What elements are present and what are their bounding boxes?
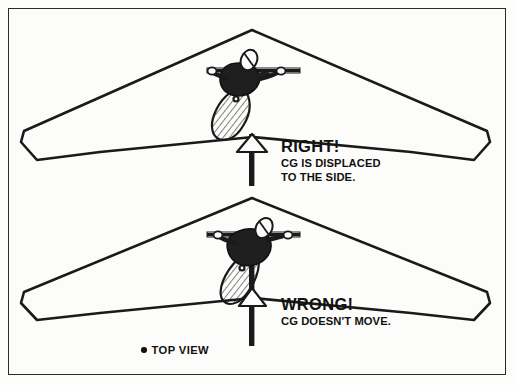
top-view-label: TOP VIEW — [152, 344, 210, 356]
harness-knot-inner-lower — [241, 267, 244, 270]
explanation-wrong: CG DOESN'T MOVE. — [281, 314, 391, 328]
explanation-right-line-1: CG IS DISPLACED — [281, 157, 381, 169]
pilot-hand-right-lower — [284, 231, 293, 238]
explanation-right: CG IS DISPLACEDTO THE SIDE. — [281, 156, 381, 185]
glider-upper — [21, 30, 490, 186]
pilot-hand-left-lower — [214, 231, 223, 238]
explanation-wrong-line-1: CG DOESN'T MOVE. — [281, 315, 391, 327]
pilot-hand-right-upper — [277, 67, 286, 74]
verdict-label-right: RIGHT! — [281, 138, 340, 155]
harness-knot-inner-upper — [235, 98, 238, 101]
bullet-dot-icon — [141, 347, 147, 353]
explanation-right-line-2: TO THE SIDE. — [281, 171, 355, 183]
illustration-canvas — [0, 0, 516, 385]
top-view-legend: TOP VIEW — [141, 344, 209, 356]
verdict-label-wrong: WRONG! — [281, 296, 353, 313]
hang-glider-cg-figure: RIGHT! CG IS DISPLACEDTO THE SIDE. WRONG… — [0, 0, 516, 385]
glider-lower — [21, 198, 490, 346]
pilot-hand-left-upper — [208, 67, 217, 74]
